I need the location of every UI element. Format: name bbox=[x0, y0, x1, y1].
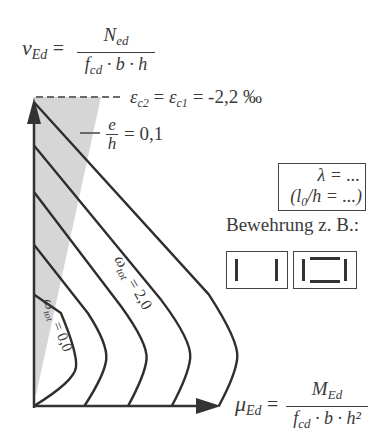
y-equals: = bbox=[53, 37, 64, 59]
strain-label: εc2 = εc1 = -2,2 ‰ bbox=[130, 86, 262, 111]
l0-open: (l bbox=[290, 186, 301, 206]
lambda-line: λ = ... bbox=[318, 165, 360, 186]
l0-rest: /h = ...) bbox=[307, 186, 362, 206]
x-denominator-sub: cd bbox=[298, 416, 310, 431]
rebar-left bbox=[235, 259, 238, 281]
x-axis-arrowhead bbox=[196, 398, 221, 414]
epsilon-c1-sub: c1 bbox=[177, 96, 188, 110]
epsilon-c2-sub: c2 bbox=[138, 96, 149, 110]
x-numerator: M bbox=[312, 378, 328, 399]
mu-symbol: μ bbox=[235, 391, 246, 416]
l0-h-line: (l0/h = ...) bbox=[290, 186, 362, 210]
y-numerator-sub: ed bbox=[116, 33, 128, 48]
y-axis-fraction: Ned fcd · b · h bbox=[77, 25, 155, 81]
cross-section-two-sided bbox=[226, 251, 288, 289]
epsilon-c1: ε bbox=[169, 86, 177, 107]
strain-value: = -2,2 ‰ bbox=[188, 86, 262, 107]
eccentricity-fraction: e h bbox=[106, 117, 118, 153]
slenderness-box: λ = ... (l0/h = ...) bbox=[278, 163, 366, 211]
x-axis-fraction: MEd fcd · b · h² bbox=[286, 379, 368, 435]
y-denominator-rest: · b · h bbox=[102, 54, 147, 74]
rebar-bottom bbox=[310, 280, 340, 283]
rebar-right bbox=[344, 259, 347, 281]
eccentricity-h: h bbox=[108, 135, 117, 153]
nu-subscript: Ed bbox=[32, 47, 48, 62]
epsilon-c2: ε bbox=[130, 86, 138, 107]
nu-symbol: ν bbox=[22, 35, 32, 60]
eccentricity-value: = 0,1 bbox=[124, 123, 163, 145]
strain-equals: = bbox=[149, 86, 169, 107]
x-equals: = bbox=[267, 393, 278, 415]
x-numerator-sub: Ed bbox=[328, 387, 342, 402]
reinforcement-label: Bewehrung z. B.: bbox=[226, 214, 359, 236]
x-axis-label: μEd = bbox=[235, 391, 278, 419]
mu-subscript: Ed bbox=[246, 403, 262, 418]
rebar-top bbox=[310, 257, 340, 260]
eccentricity-e: e bbox=[108, 117, 116, 134]
y-denominator-sub: cd bbox=[90, 62, 102, 77]
rebar-left bbox=[302, 259, 305, 281]
y-numerator: N bbox=[104, 24, 117, 45]
rebar-right bbox=[275, 259, 278, 281]
lambda-text: λ = ... bbox=[318, 165, 360, 185]
cross-section-four-sided bbox=[293, 251, 357, 289]
y-axis-label: νEd = bbox=[22, 35, 64, 63]
x-denominator-rest: · b · h² bbox=[310, 408, 360, 428]
